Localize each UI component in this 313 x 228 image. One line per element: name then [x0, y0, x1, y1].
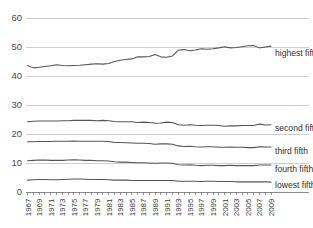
x-tick-label: 1997	[197, 198, 206, 216]
x-axis-tick-labels: 1967196919711973197519771979198119831985…	[24, 198, 277, 216]
x-tick-label: 1999	[209, 198, 218, 216]
x-tick-label: 1991	[163, 198, 172, 216]
series-line-second-fifth	[28, 120, 272, 126]
x-tick-label: 1987	[139, 198, 148, 216]
x-tick-label: 2001	[221, 198, 230, 216]
x-tick-label: 1993	[174, 198, 183, 216]
x-tick-label: 1985	[128, 198, 137, 216]
income-share-line-chart: 0102030405060 19671969197119731975197719…	[0, 0, 313, 228]
gridlines	[26, 18, 309, 192]
series-line-third-fifth	[28, 141, 272, 148]
x-tick-label: 1973	[58, 198, 67, 216]
series-inline-labels: highest fifthsecond fifththird fifthfour…	[275, 48, 313, 190]
x-tick-label: 1971	[47, 198, 56, 216]
x-tick-label: 1969	[35, 198, 44, 216]
x-tick-label: 1981	[105, 198, 114, 216]
y-tick-label: 40	[11, 70, 22, 81]
x-tick-label: 1979	[93, 198, 102, 216]
series-label-highest-fifth: highest fifth	[275, 48, 313, 58]
x-tick-label: 1983	[116, 198, 125, 216]
x-tick-label: 2007	[255, 198, 264, 216]
y-tick-label: 0	[17, 186, 22, 197]
x-tick-label: 1975	[70, 198, 79, 216]
series-line-lowest-fifth	[28, 179, 272, 182]
x-tick-label: 2009	[267, 198, 276, 216]
y-tick-label: 30	[11, 99, 22, 110]
x-axis	[28, 192, 272, 195]
y-axis-tick-labels: 0102030405060	[11, 12, 22, 197]
x-tick-label: 2003	[232, 198, 241, 216]
series-label-fourth-fifth: fourth fifth	[275, 164, 313, 174]
x-tick-label: 1977	[81, 198, 90, 216]
x-tick-label: 1995	[186, 198, 195, 216]
x-tick-label: 2005	[244, 198, 253, 216]
series-label-second-fifth: second fifth	[275, 123, 313, 133]
chart-canvas: 0102030405060 19671969197119731975197719…	[0, 0, 313, 228]
series-label-lowest-fifth: lowest fifth	[275, 180, 313, 190]
data-series-lines	[28, 46, 272, 183]
series-label-third-fifth: third fifth	[275, 146, 308, 156]
y-tick-label: 60	[11, 12, 22, 23]
y-tick-label: 50	[11, 41, 22, 52]
y-tick-label: 20	[11, 128, 22, 139]
x-tick-label: 1967	[24, 198, 33, 216]
x-tick-label: 1989	[151, 198, 160, 216]
y-tick-label: 10	[11, 157, 22, 168]
series-line-highest-fifth	[28, 46, 272, 68]
